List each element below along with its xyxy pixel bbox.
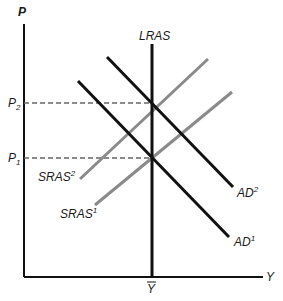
p1-tick-label: P1 [8,151,20,167]
sras2-label: SRAS2 [38,169,76,184]
p2-tick-label: P2 [8,96,21,112]
ad1-label: AD1 [233,234,255,249]
y-axis-label: P [18,5,27,19]
x-axis-label: Y [266,270,275,284]
ad2-curve [107,57,233,187]
sras2-curve [80,59,208,179]
ad-as-diagram: P Y Y P2 P1 LRAS SRAS2 SRAS1 AD2 AD1 [0,0,283,301]
ad2-label: AD2 [236,185,259,200]
y-bar-tick-label: Y [147,282,156,296]
lras-label: LRAS [139,29,170,43]
sras1-label: SRAS1 [60,206,97,221]
sras1-curve [95,92,232,205]
